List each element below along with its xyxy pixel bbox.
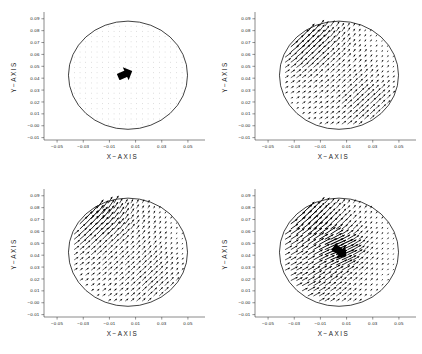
y-tick-label: −0.01 bbox=[27, 135, 39, 140]
x-axis-title: X−AXIS bbox=[107, 330, 139, 337]
y-tick-label: 0.04 bbox=[241, 76, 251, 81]
y-tick-label: 0.05 bbox=[241, 241, 251, 246]
x-axis-title: X−AXIS bbox=[318, 330, 350, 337]
y-tick-label: 0.01 bbox=[241, 111, 251, 116]
y-tick-label: 0.05 bbox=[30, 241, 40, 246]
x-tick-label: 0.01 bbox=[342, 321, 352, 326]
x-tick-label: 0.05 bbox=[183, 321, 193, 326]
y-tick-label: 0.09 bbox=[241, 193, 251, 198]
field-core-blob bbox=[115, 64, 135, 83]
y-tick-label: −0.01 bbox=[27, 312, 39, 317]
y-tick-label: −0.01 bbox=[238, 135, 250, 140]
y-tick-label: 0.04 bbox=[30, 253, 40, 258]
y-tick-label: 0.09 bbox=[30, 16, 40, 21]
x-tick-label: 0.01 bbox=[131, 144, 141, 149]
y-tick-label: 0.02 bbox=[30, 100, 40, 105]
y-tick-label: −0.00 bbox=[238, 300, 250, 305]
y-tick-label: 0.08 bbox=[241, 28, 251, 33]
y-tick-label: 0.03 bbox=[241, 265, 251, 270]
y-tick-label: −0.00 bbox=[238, 123, 250, 128]
plot-area: 0.090.080.070.060.050.040.030.020.01−0.0… bbox=[0, 0, 211, 177]
x-tick-label: −0.01 bbox=[314, 321, 326, 326]
y-tick-label: 0.08 bbox=[30, 205, 40, 210]
x-tick-label: −0.03 bbox=[77, 321, 89, 326]
x-tick-label: −0.03 bbox=[77, 144, 89, 149]
y-tick-label: 0.05 bbox=[30, 64, 40, 69]
x-tick-label: −0.03 bbox=[288, 321, 300, 326]
y-tick-label: 0.01 bbox=[30, 111, 40, 116]
panel-bottom-left: 0.090.080.070.060.050.040.030.020.01−0.0… bbox=[0, 177, 211, 354]
y-tick-label: 0.04 bbox=[30, 76, 40, 81]
y-tick-label: 0.02 bbox=[241, 100, 251, 105]
x-tick-label: −0.05 bbox=[262, 144, 274, 149]
y-axis-title: Y−AXIS bbox=[10, 61, 17, 93]
y-tick-label: 0.03 bbox=[30, 88, 40, 93]
panel-top-left: 0.090.080.070.060.050.040.030.020.01−0.0… bbox=[0, 0, 211, 177]
y-tick-label: 0.03 bbox=[30, 265, 40, 270]
x-tick-label: −0.01 bbox=[103, 321, 115, 326]
y-tick-label: 0.07 bbox=[30, 40, 40, 45]
quiver-figure: 0.090.080.070.060.050.040.030.020.01−0.0… bbox=[0, 0, 422, 354]
y-tick-label: 0.06 bbox=[241, 52, 251, 57]
x-axis-title: X−AXIS bbox=[107, 153, 139, 160]
x-tick-label: 0.05 bbox=[183, 144, 193, 149]
y-tick-label: 0.01 bbox=[30, 288, 40, 293]
plot-area: 0.090.080.070.060.050.040.030.020.01−0.0… bbox=[0, 177, 211, 354]
y-tick-label: 0.07 bbox=[30, 217, 40, 222]
y-tick-label: 0.07 bbox=[241, 217, 251, 222]
plot-area: 0.090.080.070.060.050.040.030.020.01−0.0… bbox=[211, 177, 422, 354]
x-tick-label: 0.03 bbox=[368, 144, 378, 149]
y-tick-label: 0.04 bbox=[241, 253, 251, 258]
y-tick-label: −0.00 bbox=[27, 123, 39, 128]
y-axis-title: Y−AXIS bbox=[221, 61, 228, 93]
y-tick-label: 0.05 bbox=[241, 64, 251, 69]
y-tick-label: 0.09 bbox=[241, 16, 251, 21]
x-tick-label: −0.03 bbox=[288, 144, 300, 149]
vector-field bbox=[285, 20, 395, 124]
y-tick-label: 0.07 bbox=[241, 40, 251, 45]
panel-bottom-right: 0.090.080.070.060.050.040.030.020.01−0.0… bbox=[211, 177, 422, 354]
y-tick-label: 0.02 bbox=[30, 277, 40, 282]
y-tick-label: 0.02 bbox=[241, 277, 251, 282]
y-tick-label: 0.08 bbox=[241, 205, 251, 210]
y-tick-label: −0.00 bbox=[27, 300, 39, 305]
x-tick-label: −0.05 bbox=[51, 144, 63, 149]
x-tick-label: −0.05 bbox=[51, 321, 63, 326]
y-tick-label: 0.06 bbox=[30, 229, 40, 234]
x-tick-label: 0.01 bbox=[342, 144, 352, 149]
plot-area: 0.090.080.070.060.050.040.030.020.01−0.0… bbox=[211, 0, 422, 177]
y-tick-label: 0.06 bbox=[30, 52, 40, 57]
x-tick-label: −0.05 bbox=[262, 321, 274, 326]
x-tick-label: −0.01 bbox=[314, 144, 326, 149]
y-axis-title: Y−AXIS bbox=[10, 238, 17, 270]
x-tick-label: 0.03 bbox=[368, 321, 378, 326]
panel-top-right: 0.090.080.070.060.050.040.030.020.01−0.0… bbox=[211, 0, 422, 177]
y-tick-label: 0.01 bbox=[241, 288, 251, 293]
x-tick-label: 0.01 bbox=[131, 321, 141, 326]
y-axis-title: Y−AXIS bbox=[221, 238, 228, 270]
x-tick-label: 0.03 bbox=[157, 144, 167, 149]
x-tick-label: −0.01 bbox=[103, 144, 115, 149]
x-tick-label: 0.03 bbox=[157, 321, 167, 326]
y-tick-label: 0.06 bbox=[241, 229, 251, 234]
y-tick-label: 0.09 bbox=[30, 193, 40, 198]
y-tick-label: 0.03 bbox=[241, 88, 251, 93]
y-tick-label: −0.01 bbox=[238, 312, 250, 317]
y-tick-label: 0.08 bbox=[30, 28, 40, 33]
x-axis-title: X−AXIS bbox=[318, 153, 350, 160]
x-tick-label: 0.05 bbox=[394, 321, 404, 326]
x-tick-label: 0.05 bbox=[394, 144, 404, 149]
